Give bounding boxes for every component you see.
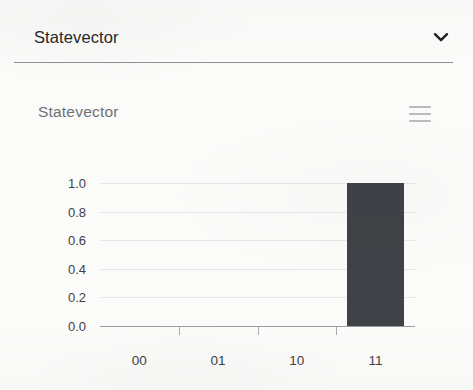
y-tick-label: 0.4 [52,262,86,275]
y-tick-label: 0.6 [52,234,86,247]
y-tick-label: 1.0 [52,177,86,190]
x-tick-label: 11 [369,354,383,368]
bar-11[interactable] [347,183,404,326]
x-tickmark [179,327,180,335]
x-tick-label: 10 [289,354,304,368]
y-tick-label: 0.8 [52,205,86,218]
y-axis-ticks: 1.00.80.60.40.20.0 [52,0,86,390]
y-tick-label: 0.0 [52,320,86,333]
x-tick-label: 00 [132,354,147,368]
bar-chart-plot: 1.00.80.60.40.20.0 00011011 [0,0,473,390]
y-tick-label: 0.2 [52,291,86,304]
x-tickmark [336,327,337,335]
x-tickmark [258,327,259,335]
x-tick-label: 01 [211,354,226,368]
